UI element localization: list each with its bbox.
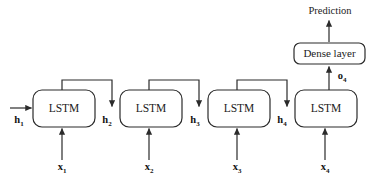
output-o4-label: o4 (338, 70, 347, 83)
input-x1-label: x1 (58, 161, 67, 174)
lstm-cell-1-label: LSTM (49, 102, 80, 114)
hidden-state-4-label: h4 (277, 114, 287, 127)
lstm-architecture-diagram: LSTM h1 x1 LSTM h2 x2 LSTM (0, 0, 377, 176)
dense-layer: Dense layer (294, 43, 365, 64)
input-x3-label: x3 (233, 161, 242, 174)
lstm-cell-3: LSTM (208, 90, 270, 127)
hidden-state-1-label: h1 (14, 114, 24, 127)
lstm-cell-3-label: LSTM (224, 102, 255, 114)
lstm-cell-1: LSTM (33, 90, 95, 127)
prediction-label: Prediction (308, 5, 352, 16)
lstm-cell-4-label: LSTM (311, 102, 342, 114)
input-x4-label: x4 (321, 161, 330, 174)
hidden-state-2-label: h2 (102, 114, 112, 127)
diagram-canvas: LSTM h1 x1 LSTM h2 x2 LSTM (0, 0, 377, 176)
lstm-cell-2: LSTM (120, 90, 182, 127)
lstm-cell-4: LSTM (295, 90, 357, 127)
input-x2-label: x2 (145, 161, 154, 174)
hidden-state-3-label: h3 (190, 114, 200, 127)
dense-layer-label: Dense layer (303, 47, 356, 59)
lstm-cell-2-label: LSTM (136, 102, 167, 114)
